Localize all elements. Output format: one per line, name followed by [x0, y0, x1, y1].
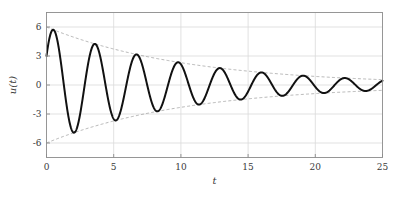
- x-tick-label: 10: [175, 162, 187, 172]
- y-tick-label: -3: [33, 109, 42, 119]
- x-tick-label: 0: [44, 162, 50, 172]
- y-tick-label: 0: [36, 80, 42, 90]
- y-tick-label: 6: [36, 22, 42, 32]
- x-tick-label: 25: [377, 162, 389, 172]
- chart-figure: 0510152025 630-3-6 t u(t): [0, 0, 403, 203]
- y-tick-label: -6: [33, 138, 42, 148]
- figure-background: [0, 0, 403, 203]
- x-tick-label: 15: [242, 162, 254, 172]
- y-axis-title: u(t): [7, 76, 18, 94]
- damped-oscillation-plot: 0510152025 630-3-6 t u(t): [0, 0, 403, 203]
- y-tick-label: 3: [36, 51, 42, 61]
- x-tick-label: 5: [111, 162, 117, 172]
- x-tick-label: 20: [310, 162, 322, 172]
